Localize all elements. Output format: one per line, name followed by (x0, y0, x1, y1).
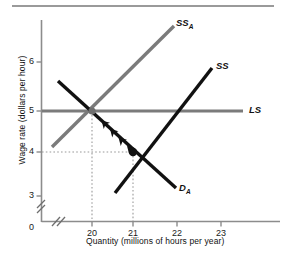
chart-figure: 6 5 4 3 0 20 21 22 23 Wage rate (dollars… (0, 0, 285, 255)
curve-label-d-a-sub: A (186, 188, 191, 195)
y-tick-label-3: 3 (22, 190, 34, 200)
curve-label-d-a: DA (179, 182, 191, 195)
point-20-5 (88, 107, 95, 114)
y-axis-title: Wage rate (dollars per hour) (17, 45, 27, 175)
curve-label-ss-text: SS (216, 60, 229, 71)
curve-label-ls: LS (249, 104, 261, 115)
curve-label-ss-a-text: SS (176, 17, 189, 28)
x-axis-title: Quantity (millions of hours per year) (86, 236, 224, 246)
y-tick-label-0: 0 (22, 222, 34, 232)
curve-label-d-a-text: D (179, 182, 186, 193)
curve-label-ss-a: SSA (176, 17, 193, 30)
curve-ss (115, 68, 212, 193)
curve-label-ss: SS (216, 60, 229, 71)
plot-area (0, 0, 285, 255)
curve-label-ss-a-sub: A (189, 23, 194, 30)
curve-label-ls-text: LS (249, 104, 261, 115)
